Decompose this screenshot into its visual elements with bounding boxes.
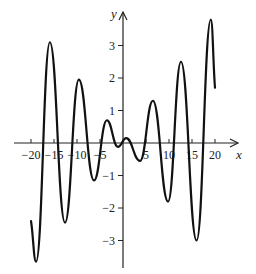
y-tick-label: 2	[109, 71, 115, 85]
x-tick-label: −15	[45, 148, 64, 162]
x-axis-label: x	[235, 147, 242, 162]
function-graph: −20−15−10−55101520321−1−2−3 x y	[0, 0, 256, 274]
y-tick-label: 1	[109, 104, 115, 118]
y-tick-label: −1	[102, 169, 115, 183]
y-axis-label: y	[109, 6, 117, 21]
x-tick-label: 20	[209, 148, 221, 162]
x-tick-label: −20	[22, 148, 41, 162]
y-tick-label: −3	[102, 234, 115, 248]
y-tick-label: −2	[102, 201, 115, 215]
y-tick-label: 3	[109, 39, 115, 53]
